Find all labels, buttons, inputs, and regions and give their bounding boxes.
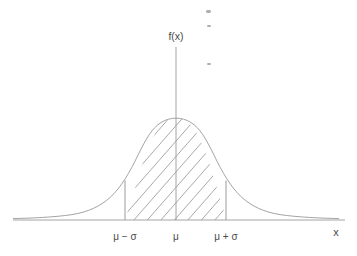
tick-label-mu-plus-sigma: μ + σ	[214, 231, 237, 242]
x-axis-label: x	[333, 227, 339, 238]
scan-speck-2-icon	[207, 25, 211, 27]
shaded-region-hatch	[58, 108, 327, 245]
scan-speck-3-icon	[207, 63, 211, 65]
tick-label-mu-minus-sigma: μ − σ	[113, 231, 136, 242]
figure-canvas: f(x) x μ − σ μ μ + σ	[0, 0, 357, 256]
scan-speck-1-icon	[206, 10, 211, 13]
tick-label-mu: μ	[173, 231, 179, 242]
y-axis-label: f(x)	[168, 31, 183, 42]
